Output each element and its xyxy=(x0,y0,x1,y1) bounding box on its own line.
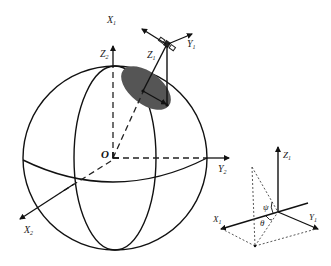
label-z2: Z2 xyxy=(100,48,109,60)
label-y2: Y2 xyxy=(218,163,227,175)
label-origin: O xyxy=(101,148,109,160)
label-psi: ψ xyxy=(263,202,269,212)
attitude-inset xyxy=(221,147,318,247)
label-x1-sat: X1 xyxy=(106,14,116,26)
label-z1-sat: Z1 xyxy=(147,49,156,61)
label-y1-sat: Y1 xyxy=(187,38,196,50)
label-y1-inset: Y1 xyxy=(309,212,317,223)
label-z1-inset: Z1 xyxy=(283,150,291,161)
label-x2: X2 xyxy=(23,224,33,236)
satellite xyxy=(141,29,192,107)
label-x1-inset: X1 xyxy=(212,214,222,225)
coordinate-diagram: X1 Y1 Z1 Z2 Y2 X2 O Z1 X1 Y1 ψ θ xyxy=(0,0,331,266)
label-theta: θ xyxy=(260,218,265,228)
